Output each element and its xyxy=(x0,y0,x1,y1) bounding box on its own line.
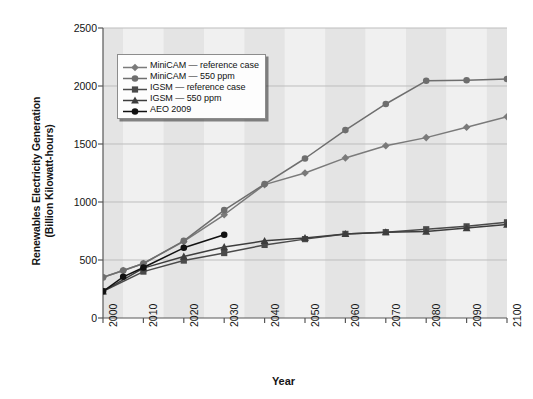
legend-item-3: IGSM — 550 ppm xyxy=(122,92,259,103)
legend-marker-diamond-icon xyxy=(122,59,148,70)
x-tick-label: 2040 xyxy=(270,304,280,327)
legend-label-0: MiniCAM — reference case xyxy=(148,60,259,70)
chart-figure: Renewables Electricity Generation (Billi… xyxy=(0,0,533,399)
legend-item-4: AEO 2009 xyxy=(122,103,259,114)
legend-label-4: AEO 2009 xyxy=(148,104,191,114)
legend-marker-triangle-icon xyxy=(122,92,148,103)
legend-marker-square-icon xyxy=(122,81,148,92)
y-tick-label: 2000 xyxy=(51,81,97,91)
legend-item-1: MiniCAM — 550 ppm xyxy=(122,70,259,81)
x-tick-label: 2070 xyxy=(391,304,401,327)
y-tick-label: 1500 xyxy=(51,139,97,149)
legend-label-2: IGSM — reference case xyxy=(148,82,246,92)
y-tick-label: 0 xyxy=(51,313,97,323)
legend-marker-circle-filled-icon xyxy=(122,103,148,114)
x-tick-label: 2000 xyxy=(108,304,118,327)
legend-item-2: IGSM — reference case xyxy=(122,81,259,92)
x-tick-label: 2100 xyxy=(512,304,522,327)
x-tick-label: 2090 xyxy=(472,304,482,327)
legend-label-3: IGSM — 550 ppm xyxy=(148,93,221,103)
y-tick-label: 2500 xyxy=(51,23,97,33)
x-tick-label: 2020 xyxy=(189,304,199,327)
legend-label-1: MiniCAM — 550 ppm xyxy=(148,71,235,81)
x-tick-label: 2060 xyxy=(350,304,360,327)
x-tick-label: 2030 xyxy=(229,304,239,327)
x-tick-label: 2050 xyxy=(310,304,320,327)
legend-item-0: MiniCAM — reference case xyxy=(122,59,259,70)
chart-legend: MiniCAM — reference caseMiniCAM — 550 pp… xyxy=(117,54,266,119)
x-tick-label: 2010 xyxy=(148,304,158,327)
y-tick-label: 1000 xyxy=(51,197,97,207)
y-tick-label: 500 xyxy=(51,255,97,265)
x-axis-title: Year xyxy=(0,375,533,387)
x-axis-title-text: Year xyxy=(272,375,295,387)
legend-marker-circle-icon xyxy=(122,70,148,81)
x-tick-label: 2080 xyxy=(431,304,441,327)
